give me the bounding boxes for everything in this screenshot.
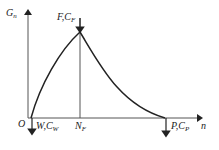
x-axis-label: n [201, 121, 206, 131]
point-f-label: F,CF [57, 12, 75, 24]
nf-label: NF [75, 121, 86, 133]
y-axis-label: Gn [6, 8, 17, 20]
rising-curve [31, 32, 80, 118]
falling-curve [80, 32, 165, 118]
origin-label: O [18, 119, 25, 129]
diagram-canvas: Gn F,CF O W,CW NF P,CP n [0, 0, 219, 150]
point-p-label: P,CP [171, 121, 189, 133]
point-w-label: W,CW [36, 121, 58, 133]
